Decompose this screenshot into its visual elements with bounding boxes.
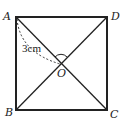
- angle-arc-aod: [55, 54, 67, 57]
- square-diagram: A D B C O 3cm: [0, 0, 126, 122]
- label-o: O: [57, 67, 66, 80]
- label-d: D: [110, 10, 120, 23]
- label-a: A: [2, 10, 11, 23]
- label-c: C: [110, 108, 119, 121]
- length-label-3cm: 3cm: [22, 42, 41, 54]
- label-b: B: [4, 106, 13, 119]
